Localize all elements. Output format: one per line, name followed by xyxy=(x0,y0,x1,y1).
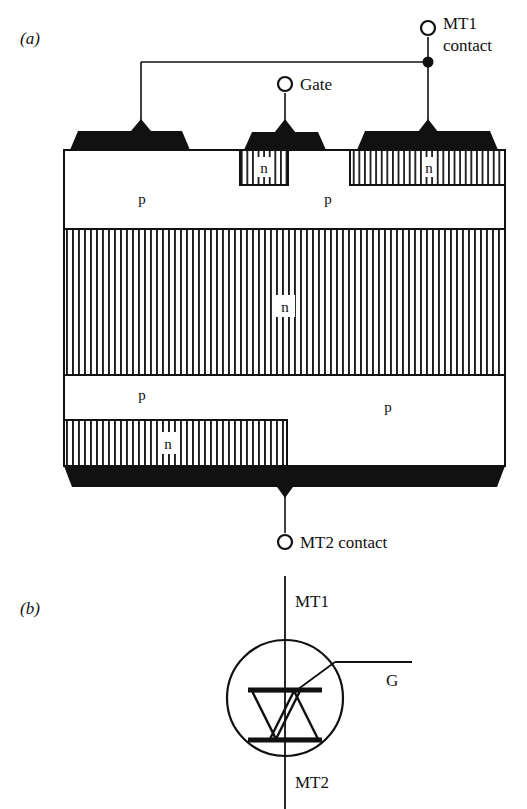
upper-p-left-label: p xyxy=(138,191,146,207)
lower-p-right-label: p xyxy=(384,399,392,415)
symbol-gate-label: G xyxy=(386,671,398,690)
symbol-triangle-up xyxy=(270,691,318,739)
symbol-triangle-down xyxy=(252,691,300,739)
triac-figure: (a) n p p n n p p xyxy=(0,0,527,809)
mt1-label-line2: contact xyxy=(443,36,492,55)
panel-b-label: (b) xyxy=(20,599,40,618)
panel-b-symbol: (b) MT1 MT2 G xyxy=(20,576,412,809)
mt1-junction-dot xyxy=(423,57,434,68)
mt2-n-label: n xyxy=(164,436,172,452)
mt2-label: MT2 contact xyxy=(300,533,388,552)
symbol-mt1-label: MT1 xyxy=(295,592,329,611)
panel-a-cross-section: (a) n p p n n p p xyxy=(20,14,505,552)
panel-a-label: (a) xyxy=(20,29,40,48)
mt1-n-label: n xyxy=(425,160,433,176)
mt1-label-line1: MT1 xyxy=(443,14,477,33)
mt1-terminal-node[interactable] xyxy=(421,21,435,35)
mt2-terminal-node[interactable] xyxy=(278,535,292,549)
upper-p-right-label: p xyxy=(324,191,332,207)
symbol-mt2-label: MT2 xyxy=(295,773,329,792)
gate-terminal-node[interactable] xyxy=(278,77,292,91)
lower-p-left-label: p xyxy=(138,387,146,403)
gate-label: Gate xyxy=(300,75,332,94)
n-drift-label: n xyxy=(281,299,289,315)
symbol-gate-diagonal xyxy=(297,662,335,690)
gate-n-label: n xyxy=(260,160,268,176)
figure-page: (a) n p p n n p p xyxy=(0,0,527,809)
